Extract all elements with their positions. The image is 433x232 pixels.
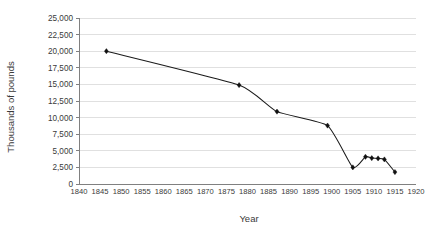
- y-axis-tick-label: 7,500: [53, 130, 74, 139]
- y-axis-tick-label: 15,000: [48, 80, 73, 89]
- x-axis-tick-label: 1885: [260, 187, 277, 196]
- y-axis-tick-label: 20,000: [48, 47, 73, 56]
- line-chart: 02,5005,0007,50010,00012,50015,00017,500…: [0, 0, 433, 232]
- y-axis-tick-label: 22,500: [48, 31, 73, 40]
- y-axis-title: Thousands of pounds: [5, 61, 16, 153]
- x-axis-tick-label: 1880: [239, 187, 256, 196]
- chart-container: 02,5005,0007,50010,00012,50015,00017,500…: [0, 0, 433, 232]
- x-axis-tick-label: 1905: [344, 187, 361, 196]
- x-axis-tick-label: 1895: [302, 187, 319, 196]
- x-axis-tick-label: 1910: [365, 187, 382, 196]
- y-axis-tick-label: 12,500: [48, 97, 73, 106]
- x-axis-tick-label: 1860: [155, 187, 172, 196]
- y-axis-tick-label: 10,000: [48, 114, 73, 123]
- y-axis-tick-label: 5,000: [53, 147, 74, 156]
- x-axis-title: Year: [239, 213, 258, 224]
- x-axis-tick-label: 1840: [71, 187, 88, 196]
- x-axis-tick-label: 1920: [408, 187, 425, 196]
- x-axis-tick-label: 1870: [197, 187, 214, 196]
- y-axis-tick-label: 17,500: [48, 64, 73, 73]
- x-axis-tick-label: 1900: [323, 187, 340, 196]
- y-axis-tick-label: 25,000: [48, 14, 73, 23]
- y-axis-tick-label: 2,500: [53, 163, 74, 172]
- x-axis-tick-label: 1915: [386, 187, 403, 196]
- x-axis-tick-label: 1855: [134, 187, 151, 196]
- x-axis-tick-label: 1865: [176, 187, 193, 196]
- x-axis-tick-label: 1850: [113, 187, 130, 196]
- x-axis-tick-label: 1845: [92, 187, 109, 196]
- x-axis-tick-label: 1875: [218, 187, 235, 196]
- x-axis-tick-label: 1890: [281, 187, 298, 196]
